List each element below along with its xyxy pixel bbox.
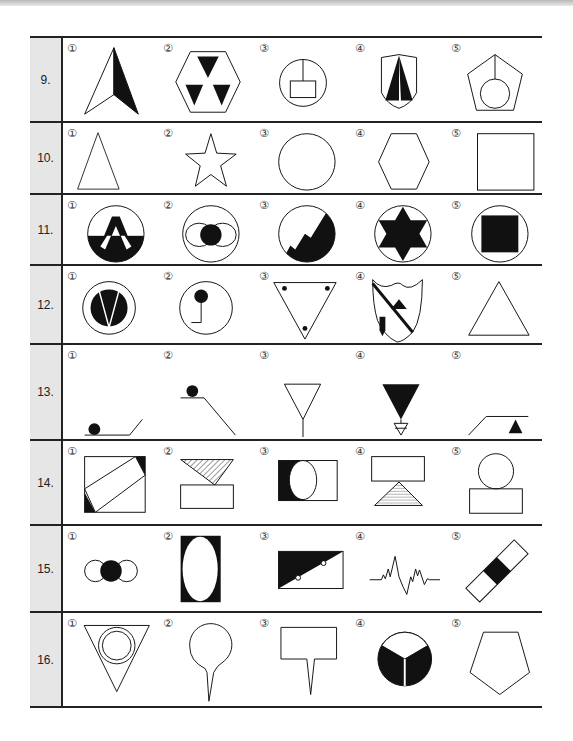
triangle-circles-icon [63, 613, 159, 706]
option-4[interactable]: ④ [351, 123, 447, 193]
option-5[interactable]: ⑤ [447, 195, 543, 264]
question-row-9: 9. ① ② ③ ④ ⑤ [30, 36, 542, 121]
option-2[interactable]: ② [159, 345, 255, 439]
triangle-icon [63, 123, 159, 193]
black-rect-ellipse-icon [159, 526, 255, 611]
option-4[interactable]: ④ [351, 195, 447, 264]
option-2[interactable]: ② [159, 441, 255, 524]
square-icon [447, 123, 543, 193]
option-1[interactable]: ① [63, 345, 159, 439]
question-row-13: 13. ① ② ③ ④ ⑤ [30, 343, 542, 439]
hexagon-triangles-icon [159, 38, 255, 121]
ring-v-icon [63, 266, 159, 343]
option-5[interactable]: ⑤ [447, 345, 543, 439]
option-4[interactable]: ④ [351, 613, 447, 706]
option-2[interactable]: ② [159, 613, 255, 706]
triangle-dots-icon [255, 266, 351, 343]
option-5[interactable]: ⑤ [447, 123, 543, 193]
option-3[interactable]: ③ [255, 613, 351, 706]
pentagon-icon [447, 613, 543, 706]
rect-spike-icon [255, 613, 351, 706]
tilted-bar-icon [447, 526, 543, 611]
circle-spike-icon [159, 613, 255, 706]
question-number: 9. [30, 38, 63, 121]
option-1[interactable]: ① [63, 123, 159, 193]
diagonal-rect-icon [255, 526, 351, 611]
option-1[interactable]: ① [63, 526, 159, 611]
top-edge-bar [0, 0, 573, 6]
hatched-triangle-rect-icon [159, 441, 255, 524]
circle-star-icon [351, 195, 447, 264]
arrowhead-icon [63, 38, 159, 121]
shield-stripe-icon [351, 266, 447, 343]
circle-icon [255, 123, 351, 193]
option-5[interactable]: ⑤ [447, 38, 543, 121]
square-tilted-rect-icon [63, 441, 159, 524]
star-icon [159, 123, 255, 193]
question-number: 16. [30, 613, 63, 706]
circle-dot-icon [159, 195, 255, 264]
option-3[interactable]: ③ [255, 195, 351, 264]
pentagon-circle-icon [447, 38, 543, 121]
circle-on-rect-icon [447, 441, 543, 524]
option-5[interactable]: ⑤ [447, 526, 543, 611]
option-5[interactable]: ⑤ [447, 266, 543, 343]
three-circles-icon [63, 526, 159, 611]
rect-black-circle-icon [255, 441, 351, 524]
ball-on-slope-icon [159, 345, 255, 439]
circle-mountains-icon [255, 195, 351, 264]
question-number: 12. [30, 266, 63, 343]
question-row-14: 14. ① ② ③ ④ ⑤ [30, 439, 542, 524]
option-4[interactable]: ④ [351, 526, 447, 611]
option-4[interactable]: ④ [351, 266, 447, 343]
black-circle-sectors-icon [351, 613, 447, 706]
option-3[interactable]: ③ [255, 441, 351, 524]
option-4[interactable]: ④ [351, 345, 447, 439]
option-2[interactable]: ② [159, 38, 255, 121]
question-number: 14. [30, 441, 63, 524]
option-2[interactable]: ② [159, 195, 255, 264]
option-1[interactable]: ① [63, 441, 159, 524]
circle-rectangle-icon [255, 38, 351, 121]
question-row-12: 12. ① ② ③ ④ ⑤ [30, 264, 542, 343]
option-1[interactable]: ① [63, 266, 159, 343]
option-5[interactable]: ⑤ [447, 613, 543, 706]
zigzag-signal-icon [351, 526, 447, 611]
rect-hatched-triangle-icon [351, 441, 447, 524]
circle-square-icon [447, 195, 543, 264]
option-3[interactable]: ③ [255, 526, 351, 611]
question-number: 11. [30, 195, 63, 264]
option-2[interactable]: ② [159, 526, 255, 611]
option-3[interactable]: ③ [255, 345, 351, 439]
question-row-15: 15. ① ② ③ ④ ⑤ [30, 524, 542, 611]
question-number: 15. [30, 526, 63, 611]
triangle-icon [447, 266, 543, 343]
hexagon-icon [351, 123, 447, 193]
option-3[interactable]: ③ [255, 38, 351, 121]
question-number: 10. [30, 123, 63, 193]
option-2[interactable]: ② [159, 266, 255, 343]
option-1[interactable]: ① [63, 38, 159, 121]
question-row-10: 10. ① ② ③ ④ ⑤ [30, 121, 542, 193]
ball-on-ramp-icon [63, 345, 159, 439]
option-3[interactable]: ③ [255, 123, 351, 193]
circle-pin-icon [159, 266, 255, 343]
option-3[interactable]: ③ [255, 266, 351, 343]
triangle-on-ramp-icon [447, 345, 543, 439]
circle-letter-a-icon [63, 195, 159, 264]
question-row-16: 16. ① ② ③ ④ ⑤ [30, 611, 542, 708]
option-4[interactable]: ④ [351, 441, 447, 524]
option-1[interactable]: ① [63, 195, 159, 264]
question-number: 13. [30, 345, 63, 439]
option-5[interactable]: ⑤ [447, 441, 543, 524]
shield-triangles-icon [351, 38, 447, 121]
question-row-11: 11. ① ② ③ ④ ⑤ [30, 193, 542, 264]
triangle-stem-icon [255, 345, 351, 439]
option-4[interactable]: ④ [351, 38, 447, 121]
option-1[interactable]: ① [63, 613, 159, 706]
black-triangle-icon [351, 345, 447, 439]
option-2[interactable]: ② [159, 123, 255, 193]
